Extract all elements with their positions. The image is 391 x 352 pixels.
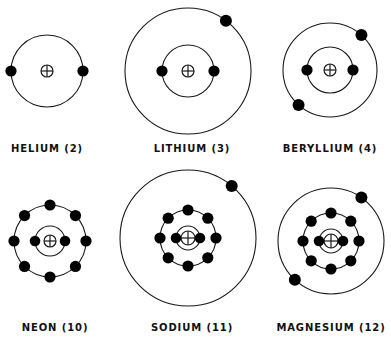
electron-shell-2-1 [182, 204, 193, 215]
electron-shell-2-2 [293, 99, 305, 111]
electron-shell-2-2 [202, 213, 213, 224]
electron-shell-2-2 [70, 210, 81, 221]
electron-shell-2-1 [355, 29, 367, 41]
electron-shell-1-2 [338, 236, 349, 247]
atom-label-magnesium: MAGNESIUM (12) [276, 322, 385, 334]
electron-shell-2-6 [163, 252, 174, 263]
electron-shell-2-7 [154, 232, 165, 243]
electron-shell-1-1 [171, 233, 182, 244]
electron-shell-1-2 [208, 65, 219, 76]
atom-label-sodium: SODIUM (11) [151, 322, 233, 334]
electron-shell-2-4 [70, 261, 81, 272]
electron-shell-2-1 [44, 199, 55, 210]
electron-shell-2-7 [297, 235, 308, 246]
electron-shell-2-8 [19, 210, 30, 221]
electron-shell-2-4 [345, 255, 356, 266]
electron-shell-2-6 [19, 261, 30, 272]
atom-diagram-canvas [0, 0, 391, 352]
atom-label-neon: NEON (10) [22, 322, 89, 334]
atom-neon [8, 199, 91, 282]
electron-shell-1-1 [30, 236, 41, 247]
electron-shell-2-1 [220, 15, 232, 27]
electron-shell-2-1 [325, 207, 336, 218]
atom-sodium [120, 170, 256, 306]
electron-shell-2-6 [306, 255, 317, 266]
electron-shell-3-2 [289, 274, 301, 286]
electron-shell-2-5 [182, 260, 193, 271]
atom-label-lithium: LITHIUM (3) [154, 143, 231, 155]
electron-shell-2-7 [8, 235, 19, 246]
electron-shell-1-1 [314, 236, 325, 247]
atom-helium [5, 35, 88, 107]
atom-label-helium: HELIUM (2) [11, 143, 83, 155]
electron-shell-1-2 [77, 65, 88, 76]
atom-beryllium [283, 23, 377, 117]
electron-shell-2-2 [345, 216, 356, 227]
electron-shell-2-3 [353, 235, 364, 246]
electron-shell-2-5 [44, 271, 55, 282]
electron-shell-2-4 [202, 252, 213, 263]
atom-diagram-figure: HELIUM (2)LITHIUM (3)BERYLLIUM (4)NEON (… [0, 0, 391, 352]
atom-label-beryllium: BERYLLIUM (4) [283, 143, 378, 155]
electron-shell-1-2 [195, 233, 206, 244]
electron-shell-2-5 [325, 263, 336, 274]
electron-shell-2-8 [306, 216, 317, 227]
electron-shell-1-2 [347, 64, 358, 75]
electron-shell-1-1 [301, 64, 312, 75]
electron-shell-1-1 [5, 65, 16, 76]
electron-shell-2-3 [210, 232, 221, 243]
electron-shell-2-3 [80, 235, 91, 246]
atom-magnesium [278, 188, 384, 294]
electron-shell-1-2 [60, 236, 71, 247]
electron-shell-3-1 [226, 180, 238, 192]
electron-shell-1-1 [156, 65, 167, 76]
electron-shell-3-1 [355, 192, 367, 204]
atom-lithium [125, 8, 251, 134]
electron-shell-2-8 [163, 213, 174, 224]
